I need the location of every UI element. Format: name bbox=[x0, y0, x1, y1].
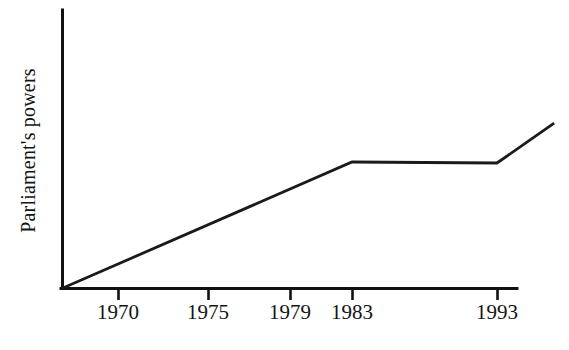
chart-figure: Parliament's powers 1970 1975 1979 1983 … bbox=[0, 0, 569, 350]
x-tick-label-1993: 1993 bbox=[476, 300, 518, 324]
x-axis-ticks bbox=[119, 289, 498, 300]
data-line-parliaments-powers bbox=[63, 124, 553, 288]
x-tick-label-1979: 1979 bbox=[269, 300, 311, 324]
chart-plot-area bbox=[0, 0, 569, 350]
x-tick-label-1975: 1975 bbox=[187, 300, 229, 324]
x-tick-label-1970: 1970 bbox=[97, 300, 139, 324]
x-tick-label-1983: 1983 bbox=[331, 300, 373, 324]
